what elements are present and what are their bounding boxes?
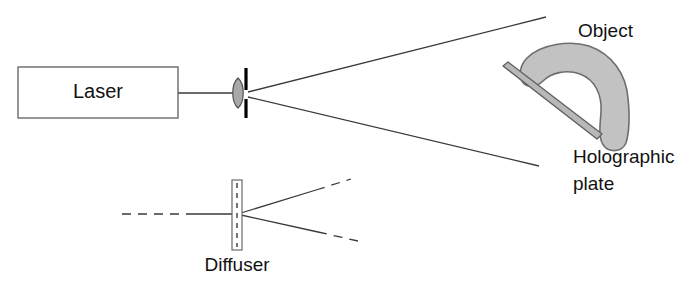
diffuser-output-lower-solid <box>241 215 318 232</box>
laser-label: Laser <box>73 80 123 102</box>
laser-source: Laser <box>18 67 178 118</box>
upper-diverging-ray <box>248 17 546 92</box>
diffuser-label: Diffuser <box>204 254 270 275</box>
holographic-plate: Holographic plate <box>503 62 674 194</box>
lens-biconvex-shape <box>233 78 244 108</box>
diffuser: Diffuser <box>204 180 270 275</box>
holographic-plate-label-line1: Holographic <box>573 146 674 167</box>
lens <box>233 78 244 108</box>
beam-layer <box>122 17 546 241</box>
holography-setup-diagram: Laser Object Holographic plate Diffuser <box>0 0 700 283</box>
object-label: Object <box>578 20 634 41</box>
diagram-canvas: Laser Object Holographic plate Diffuser <box>0 0 700 283</box>
holographic-plate-label-line2: plate <box>573 173 614 194</box>
diffuser-output-upper-solid <box>241 190 316 213</box>
lower-diverging-ray <box>248 97 539 166</box>
object-hook-shape <box>520 43 629 150</box>
diffuser-output-lower-dashed <box>318 232 358 241</box>
diffuser-output-upper-dashed <box>316 179 351 190</box>
